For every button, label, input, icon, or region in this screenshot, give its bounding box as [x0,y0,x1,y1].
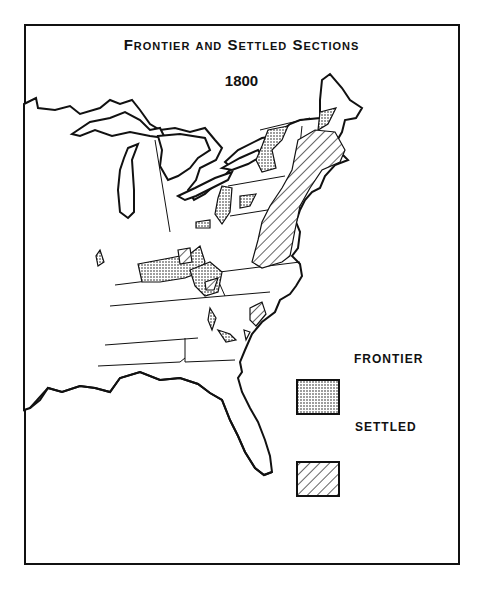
legend-settled-label: SETTLED [355,420,417,434]
legend-frontier-swatch [297,380,339,414]
map-graphic [0,0,483,605]
legend-frontier-label: FRONTIER [354,352,423,366]
legend-settled-swatch [297,462,339,496]
